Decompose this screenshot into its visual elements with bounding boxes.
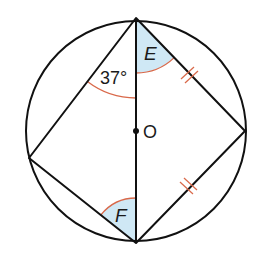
angle-e-label: E [144,43,157,64]
circle-diagram: O 37° E F [0,0,259,258]
angle-37-label: 37° [100,68,127,88]
tick-marks-rb [180,178,197,194]
center-label: O [143,122,157,142]
angle-f-label: F [115,205,128,226]
diagram-svg: O 37° E F [0,0,259,258]
center-point [133,128,139,134]
